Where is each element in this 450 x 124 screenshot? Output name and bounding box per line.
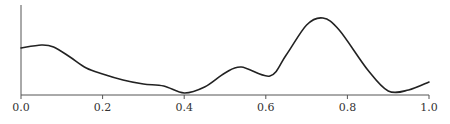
x-axis-ticks: 0.00.20.40.60.81.0 — [12, 95, 438, 114]
x-tick-label: 0.4 — [175, 101, 193, 114]
density-line-chart: 0.00.20.40.60.81.0 — [0, 0, 450, 124]
x-tick-label: 0.2 — [94, 101, 112, 114]
x-tick-label: 1.0 — [420, 101, 438, 114]
x-tick-label: 0.8 — [339, 101, 357, 114]
x-tick-label: 0.6 — [257, 101, 275, 114]
density-curve — [21, 18, 429, 93]
x-tick-label: 0.0 — [12, 101, 30, 114]
